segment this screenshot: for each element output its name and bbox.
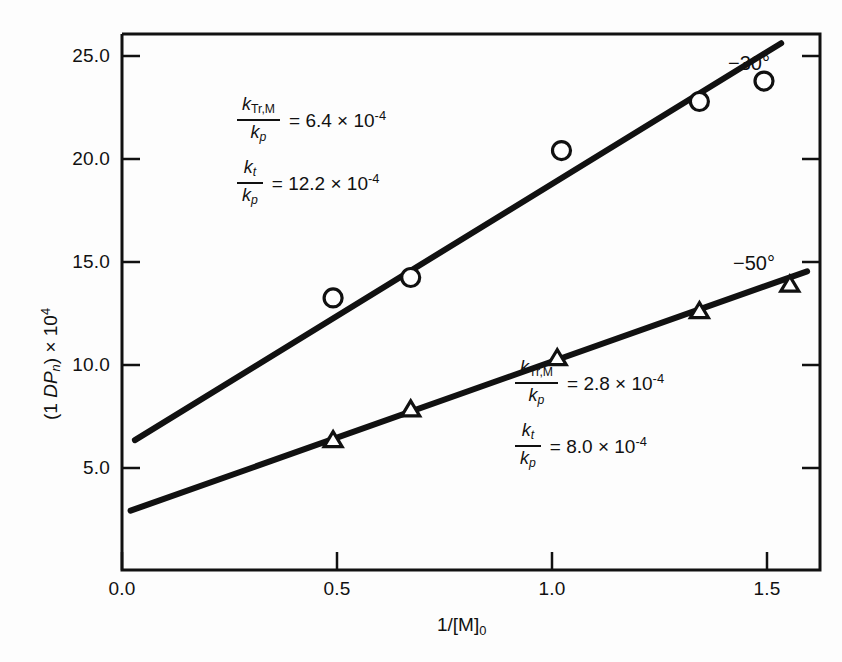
fraction-bar — [515, 445, 541, 447]
fraction-numerator: kTr,M — [515, 358, 558, 380]
equation-rhs: = 12.2 × 10-4 — [272, 171, 380, 195]
x-tick-label: 1.5 — [733, 578, 801, 600]
fraction-denominator: kp — [524, 386, 550, 408]
annotation-minus30: kTr,M kp = 6.4 × 10-4 kt kp = 12.2 × 10-… — [237, 95, 386, 222]
data-point — [324, 289, 342, 307]
equation-rhs: = 8.0 × 10-4 — [550, 434, 647, 458]
x-tick-label: 0.0 — [88, 578, 156, 600]
data-point — [402, 401, 420, 416]
x-tick-marks — [122, 552, 767, 570]
numerator-symbol: k — [522, 420, 531, 440]
fraction-denominator: kp — [237, 186, 263, 208]
fraction-bar — [515, 382, 558, 384]
equation-ktrm-kp-minus30: kTr,M kp = 6.4 × 10-4 — [237, 95, 386, 144]
x-axis-title-subscript: 0 — [479, 623, 486, 638]
equation-kt-kp-minus50: kt kp = 8.0 × 10-4 — [515, 421, 664, 470]
y-axis-title: (1 DPn) × 104 — [38, 308, 63, 420]
y-tick-label: 25.0 — [44, 45, 110, 67]
fraction: kt kp — [515, 421, 541, 470]
y-tick-label: 15.0 — [44, 251, 110, 273]
y-tick-marks — [122, 56, 140, 468]
fit-line-minus30 — [135, 43, 781, 440]
fit-line-minus50 — [131, 271, 808, 510]
rhs-text: = 12.2 × 10 — [272, 173, 368, 194]
plot-canvas — [0, 0, 842, 662]
rhs-exponent: -4 — [653, 371, 664, 386]
y-tick-label: 20.0 — [44, 148, 110, 170]
fraction: kt kp — [237, 158, 263, 207]
x-tick-label: 1.0 — [518, 578, 586, 600]
rhs-exponent: -4 — [375, 108, 386, 123]
numerator-subscript: t — [531, 429, 534, 443]
denominator-subscript: p — [260, 130, 267, 144]
y-axis-title-exponent: 4 — [38, 308, 53, 315]
fraction-bar — [237, 182, 263, 184]
y-axis-title-subscript: n — [48, 364, 63, 371]
equation-kt-kp-minus30: kt kp = 12.2 × 10-4 — [237, 158, 386, 207]
fraction: kTr,M kp — [515, 358, 558, 407]
figure-container: 25.0 20.0 15.0 10.0 5.0 0.0 0.5 1.0 1.5 … — [0, 0, 842, 662]
data-point — [690, 93, 708, 111]
denominator-symbol: k — [242, 185, 251, 205]
data-point — [553, 142, 571, 160]
numerator-subscript: t — [253, 166, 256, 180]
x-axis-title: 1/[M]0 — [437, 614, 486, 638]
rhs-text: = 8.0 × 10 — [550, 436, 636, 457]
y-axis-title-tail: ) × 10 — [40, 315, 61, 364]
y-tick-marks-right — [802, 56, 820, 468]
rhs-text: = 6.4 × 10 — [289, 109, 375, 130]
equation-rhs: = 2.8 × 10-4 — [567, 371, 664, 395]
denominator-subscript: p — [529, 456, 536, 470]
data-point — [402, 269, 420, 287]
x-axis-title-main: 1/[M] — [437, 614, 479, 635]
rhs-exponent: -4 — [635, 434, 646, 449]
y-tick-label: 5.0 — [44, 457, 110, 479]
equation-rhs: = 6.4 × 10-4 — [289, 108, 386, 132]
numerator-symbol: k — [244, 157, 253, 177]
denominator-subscript: p — [251, 193, 258, 207]
denominator-symbol: k — [520, 448, 529, 468]
fraction-bar — [237, 119, 280, 121]
denominator-subscript: p — [538, 393, 545, 407]
series-label-minus50: −50° — [733, 252, 775, 275]
fraction-denominator: kp — [246, 123, 272, 145]
denominator-symbol: k — [529, 385, 538, 405]
numerator-symbol: k — [242, 94, 251, 114]
denominator-symbol: k — [251, 122, 260, 142]
equation-ktrm-kp-minus50: kTr,M kp = 2.8 × 10-4 — [515, 358, 664, 407]
fraction-numerator: kt — [517, 421, 539, 443]
fraction-numerator: kTr,M — [237, 95, 280, 117]
y-axis-title-prefix: (1 — [40, 398, 61, 420]
fraction-denominator: kp — [515, 449, 541, 471]
numerator-subscript: Tr,M — [251, 102, 275, 116]
annotation-minus50: kTr,M kp = 2.8 × 10-4 kt kp = 8.0 × 10-4 — [515, 358, 664, 485]
numerator-symbol: k — [520, 357, 529, 377]
rhs-text: = 2.8 × 10 — [567, 372, 653, 393]
fraction: kTr,M kp — [237, 95, 280, 144]
series-label-minus30: −30° — [728, 52, 770, 75]
y-axis-title-symbol: DP — [40, 371, 61, 397]
fraction-numerator: kt — [239, 158, 261, 180]
numerator-subscript: Tr,M — [529, 365, 553, 379]
x-tick-label: 0.5 — [303, 578, 371, 600]
rhs-exponent: -4 — [368, 171, 379, 186]
